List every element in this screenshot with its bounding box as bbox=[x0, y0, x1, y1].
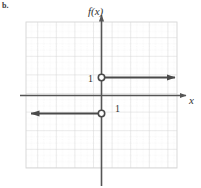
x-axis-label: x bbox=[188, 94, 194, 106]
open-circle-point-upper bbox=[98, 74, 104, 80]
open-circle-point-lower bbox=[98, 110, 104, 116]
graph-svg: f(x) x 1 1 bbox=[0, 0, 201, 188]
tick-label-x-one: 1 bbox=[115, 103, 120, 114]
figure-part-label: b. bbox=[2, 2, 8, 10]
figure-container: b. bbox=[0, 0, 201, 188]
y-axis-label: f(x) bbox=[88, 5, 104, 18]
tick-label-y-one: 1 bbox=[88, 73, 93, 84]
